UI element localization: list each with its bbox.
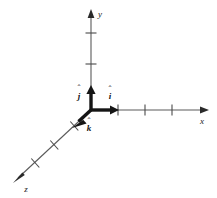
- j-hat-vector-arrowhead: [86, 85, 95, 94]
- j-hat-caret: ̂: [77, 84, 81, 86]
- axes-diagram: x y z ̂ i ̂ j ̂ k: [0, 0, 217, 198]
- y-axis-arrowhead: [88, 9, 95, 18]
- z-axis-arrowhead: [13, 173, 25, 183]
- coordinate-axes-figure: x y z ̂ i ̂ j ̂ k: [0, 0, 217, 198]
- i-hat-label-group: ̂ i: [108, 85, 112, 101]
- k-hat-caret: ̂: [87, 117, 91, 119]
- k-hat-letter: k: [87, 123, 92, 133]
- z-axis-label: z: [23, 184, 28, 194]
- y-axis-label: y: [97, 9, 102, 19]
- j-hat-letter: j: [76, 91, 81, 101]
- j-hat-label-group: ̂ j: [76, 84, 81, 101]
- tick-marks-group: [31, 33, 172, 168]
- i-hat-letter: i: [109, 91, 112, 101]
- i-hat-caret: ̂: [108, 85, 112, 87]
- k-hat-label-group: ̂ k: [87, 117, 92, 133]
- x-axis-label: x: [199, 116, 204, 126]
- k-hat-vector-shaft: [79, 110, 92, 122]
- x-axis-arrowhead: [200, 107, 209, 114]
